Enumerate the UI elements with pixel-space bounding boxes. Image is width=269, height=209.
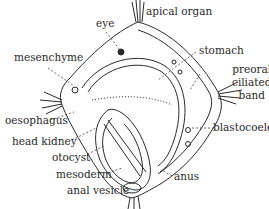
label-anal-vesicle: anal vesicle — [67, 185, 129, 196]
label-head-kidney: head kidney — [12, 136, 77, 147]
label-blastocoele: blastocoele — [213, 122, 269, 133]
label-line-band: band — [232, 89, 269, 102]
label-line-ciliated: ciliated — [232, 76, 269, 89]
label-preoral-ciliated-band: preoral ciliated band — [232, 63, 269, 102]
label-mesenchyme: mesenchyme — [14, 52, 83, 63]
label-anus: anus — [174, 171, 199, 182]
label-stomach: stomach — [199, 45, 244, 56]
label-eye: eye — [96, 18, 114, 29]
larva-drawing — [0, 0, 269, 209]
eye-spot — [118, 49, 124, 55]
label-mesoderm: mesoderm — [56, 169, 112, 180]
label-apical-organ: apical organ — [146, 6, 212, 17]
label-oesophagus: oesophagus — [5, 115, 68, 126]
label-line-preoral: preoral — [232, 63, 269, 76]
label-otocyst: otocyst — [52, 152, 90, 163]
trochophore-diagram: eye apical organ mesenchyme stomach preo… — [0, 0, 269, 209]
